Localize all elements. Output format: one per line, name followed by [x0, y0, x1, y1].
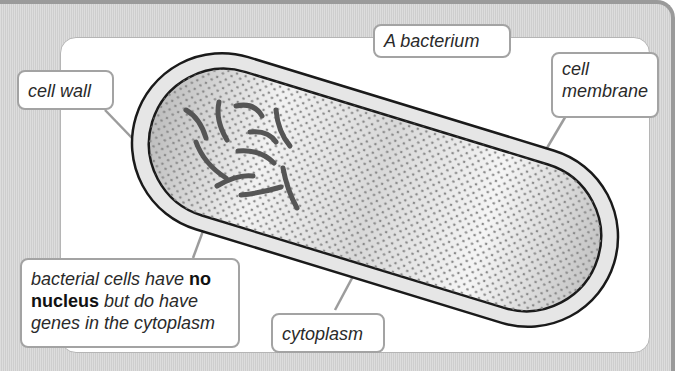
cell-membrane-label: cell membrane	[551, 52, 659, 118]
cell-membrane-text-2: membrane	[562, 81, 648, 101]
nucleus-note-label: bacterial cells have no nucleus but do h…	[20, 258, 240, 348]
nucleus-note-text-3: genes in the cytoplasm	[31, 313, 215, 333]
nucleus-note-bold-1: no	[189, 269, 211, 289]
cytoplasm-label: cytoplasm	[271, 313, 385, 353]
nucleus-note-bold-2: nucleus	[31, 291, 99, 311]
cell-membrane-text-1: cell	[562, 59, 589, 79]
title-text: A bacterium	[384, 31, 479, 51]
cell-wall-label: cell wall	[17, 70, 114, 110]
cell-wall-leader	[105, 110, 132, 138]
nucleus-note-text-2: but do have	[99, 291, 198, 311]
title-label: A bacterium	[373, 24, 511, 58]
cell-wall-text: cell wall	[28, 81, 91, 101]
nucleus-note-text-1: bacterial cells have	[31, 269, 189, 289]
cell-membrane-leader	[547, 114, 567, 148]
cytoplasm-text: cytoplasm	[282, 324, 363, 344]
